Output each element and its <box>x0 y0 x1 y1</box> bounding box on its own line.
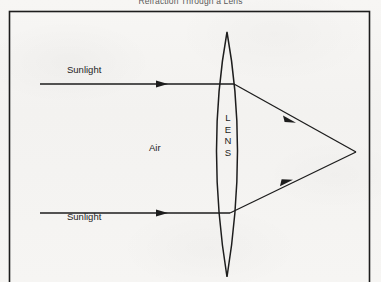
lens-letter-l: L <box>222 112 234 124</box>
lens-letter-e: E <box>222 124 234 136</box>
lower-refracted-ray <box>230 152 356 213</box>
label-air: Air <box>149 142 161 153</box>
lower-incident-arrowhead <box>156 209 168 216</box>
refraction-diagram <box>0 0 381 282</box>
lens-letter-n: N <box>222 135 234 147</box>
label-lens: L E N S <box>222 112 234 158</box>
label-sunlight-top: Sunlight <box>67 64 101 75</box>
label-sunlight-bottom: Sunlight <box>67 211 101 222</box>
upper-refracted-arrowhead <box>283 116 296 123</box>
diagram-canvas: Refraction Through a Lens Sunlight Sunli… <box>0 0 381 282</box>
upper-refracted-ray <box>234 84 356 152</box>
upper-incident-arrowhead <box>156 80 168 87</box>
lens-letter-s: S <box>222 147 234 159</box>
diagram-frame <box>10 12 370 282</box>
